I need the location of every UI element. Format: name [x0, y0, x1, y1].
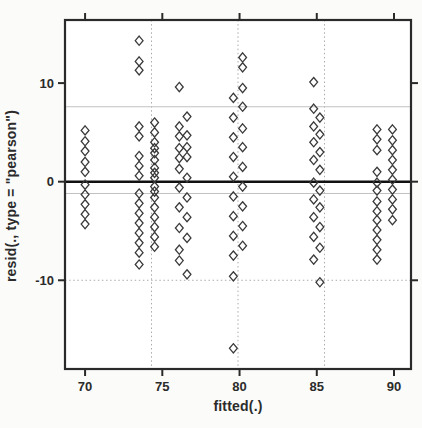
x-tick-label: 90: [387, 379, 401, 394]
y-tick-label: -10: [35, 273, 54, 288]
y-axis-title: resid(., type = "pearson"): [3, 110, 19, 282]
plot-canvas: 7075808590-10010 fitted(.) resid(., type…: [0, 0, 422, 428]
x-tick-label: 85: [310, 379, 324, 394]
residual-scatter-plot: 7075808590-10010 fitted(.) resid(., type…: [0, 0, 422, 428]
x-tick-label: 70: [78, 379, 92, 394]
x-tick-label: 75: [155, 379, 169, 394]
x-tick-label: 80: [232, 379, 246, 394]
y-tick-label: 10: [40, 76, 54, 91]
y-tick-label: 0: [47, 174, 54, 189]
x-axis-title: fitted(.): [213, 398, 262, 414]
